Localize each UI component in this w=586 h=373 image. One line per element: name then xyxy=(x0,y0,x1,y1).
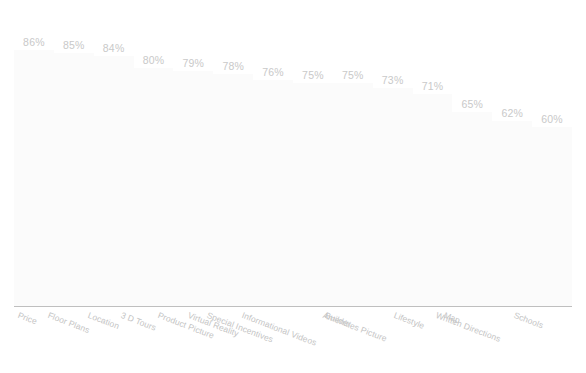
bar[interactable] xyxy=(293,83,333,307)
bar-value-label: 86% xyxy=(23,36,45,48)
bar-value-label: 75% xyxy=(302,69,324,81)
bar-column[interactable]: 75% xyxy=(293,8,333,306)
bar[interactable] xyxy=(492,121,532,306)
bar-column[interactable]: 71% xyxy=(413,8,453,306)
bar-value-label: 65% xyxy=(462,98,484,110)
bar[interactable] xyxy=(333,83,373,307)
bar[interactable] xyxy=(413,94,453,306)
bar[interactable] xyxy=(173,71,213,306)
bar[interactable] xyxy=(373,88,413,306)
bar-column[interactable]: 84% xyxy=(94,8,134,306)
bar[interactable] xyxy=(253,80,293,306)
bar-column[interactable]: 75% xyxy=(333,8,373,306)
x-tick-label-written-directions: Written Directions xyxy=(434,310,502,344)
x-tick-label-location: Location xyxy=(86,310,120,331)
bar[interactable] xyxy=(213,74,253,306)
x-axis-line xyxy=(14,306,572,307)
bar-value-label: 85% xyxy=(63,39,85,51)
bar[interactable] xyxy=(134,68,174,306)
x-tick-label-schools: Schools xyxy=(512,310,544,330)
x-tick-label-amenities-picture: Amenities Picture xyxy=(321,310,388,344)
bar[interactable] xyxy=(14,50,54,306)
bar-value-label: 71% xyxy=(422,80,444,92)
bar-value-label: 79% xyxy=(183,57,205,69)
bar-column[interactable]: 85% xyxy=(54,8,94,306)
x-tick-label-3d-tours: 3 D Tours xyxy=(119,310,157,333)
bar[interactable] xyxy=(94,56,134,306)
x-tick-label-lifestyle: Lifestyle xyxy=(392,310,426,331)
x-tick-label-price: Price xyxy=(16,310,38,326)
bar-value-label: 76% xyxy=(262,66,284,78)
bar[interactable] xyxy=(452,112,492,306)
bar-value-label: 84% xyxy=(103,42,125,54)
bar-value-label: 60% xyxy=(541,113,563,125)
bar-value-label: 78% xyxy=(222,60,244,72)
bar[interactable] xyxy=(532,127,572,306)
bar-value-label: 62% xyxy=(501,107,523,119)
bar-value-label: 75% xyxy=(342,69,364,81)
bar-column[interactable]: 65% xyxy=(452,8,492,306)
bar-value-label: 80% xyxy=(143,54,165,66)
bar-column[interactable]: 78% xyxy=(213,8,253,306)
bar-column[interactable]: 86% xyxy=(14,8,54,306)
bar[interactable] xyxy=(54,53,94,306)
bar-column[interactable]: 60% xyxy=(532,8,572,306)
bar-column[interactable]: 62% xyxy=(492,8,532,306)
bar-value-label: 73% xyxy=(382,74,404,86)
bar-column[interactable]: 76% xyxy=(253,8,293,306)
bar-column[interactable]: 80% xyxy=(134,8,174,306)
bar-column[interactable]: 79% xyxy=(173,8,213,306)
bar-chart: 86% 85% 84% 80% 79% 78% 76% 75% xyxy=(0,0,586,373)
x-tick-label-floor-plans: Floor Plans xyxy=(46,310,91,335)
bar-column[interactable]: 73% xyxy=(373,8,413,306)
plot-area: 86% 85% 84% 80% 79% 78% 76% 75% xyxy=(14,8,572,306)
